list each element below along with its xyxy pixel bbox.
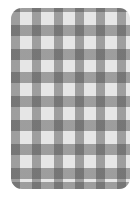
image-canvas: gingham fabric swatch: [0, 0, 140, 201]
gingham-swatch: [11, 8, 130, 189]
horizontal-stripes: [11, 8, 130, 189]
image-subject: gingham fabric swatch: [0, 0, 1, 1]
